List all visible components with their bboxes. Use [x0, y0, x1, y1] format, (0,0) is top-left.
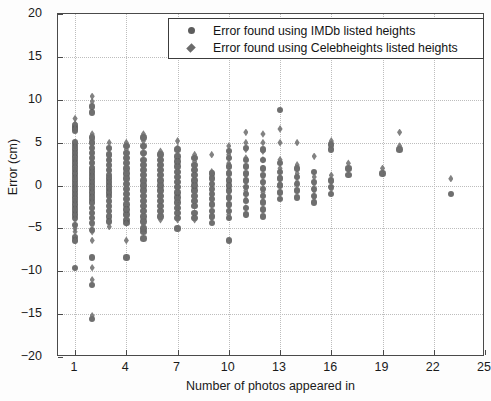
y-tick-label: 20: [28, 6, 42, 20]
legend-label-imdb: Error found using IMDb listed heights: [213, 24, 415, 38]
data-point-imdb: [277, 107, 283, 113]
legend-entry-imdb: Error found using IMDb listed heights: [169, 22, 483, 39]
plot-area: [57, 13, 484, 356]
data-point-celebheights: [260, 130, 265, 138]
data-point-celebheights: [277, 125, 282, 133]
data-point-celebheights: [260, 139, 265, 147]
data-point-imdb: [277, 196, 283, 202]
data-points-layer: [58, 14, 483, 355]
data-point-imdb: [89, 254, 95, 260]
data-point-imdb: [448, 191, 454, 197]
data-point-celebheights: [448, 175, 453, 183]
data-point-imdb: [226, 237, 232, 243]
y-tick-label: 15: [28, 49, 42, 63]
legend-label-celebheights: Error found using Celebheights listed he…: [213, 41, 458, 55]
legend-entry-celebheights: Error found using Celebheights listed he…: [169, 39, 483, 56]
y-tick-label: −15: [21, 306, 42, 320]
y-tick-label: −5: [28, 220, 42, 234]
x-tick-label: 13: [272, 360, 286, 374]
x-axis-label: Number of photos appeared in: [57, 379, 484, 393]
data-point-imdb: [294, 194, 300, 200]
x-tick-label: 4: [122, 360, 129, 374]
x-axis-tick-labels: 147101316192225: [0, 360, 491, 378]
x-tick-label: 25: [477, 360, 491, 374]
data-point-celebheights: [312, 153, 317, 161]
data-point-celebheights: [90, 237, 95, 245]
x-tick-label: 7: [173, 360, 180, 374]
y-axis-label: Error (cm): [6, 107, 20, 227]
x-tick-label: 16: [323, 360, 337, 374]
scatter-plot-figure: −20−15−10−505101520 Error (cm) 147101316…: [0, 0, 491, 401]
chart-legend: Error found using IMDb listed heights Er…: [168, 18, 484, 59]
circle-marker-icon: [169, 27, 213, 34]
data-point-imdb: [174, 225, 180, 231]
y-tick-mark: [58, 357, 63, 358]
data-point-celebheights: [209, 151, 214, 159]
data-point-celebheights: [175, 137, 180, 145]
x-tick-mark: [485, 350, 486, 355]
y-tick-label: 5: [35, 135, 42, 149]
data-point-imdb: [140, 235, 146, 241]
x-tick-label: 19: [375, 360, 389, 374]
y-tick-label: 0: [35, 178, 42, 192]
data-point-imdb: [72, 265, 78, 271]
data-point-imdb: [89, 109, 95, 115]
y-tick-label: 10: [28, 92, 42, 106]
y-tick-label: −10: [21, 263, 42, 277]
data-point-celebheights: [277, 139, 282, 147]
x-tick-label: 10: [221, 360, 235, 374]
data-point-imdb: [123, 254, 129, 260]
diamond-marker-icon: [169, 45, 213, 51]
data-point-celebheights: [90, 264, 95, 272]
data-point-celebheights: [124, 237, 129, 245]
data-point-celebheights: [295, 139, 300, 147]
data-point-celebheights: [397, 129, 402, 137]
data-point-imdb: [260, 213, 266, 219]
data-point-celebheights: [243, 129, 248, 137]
x-tick-label: 1: [71, 360, 78, 374]
x-tick-label: 22: [426, 360, 440, 374]
